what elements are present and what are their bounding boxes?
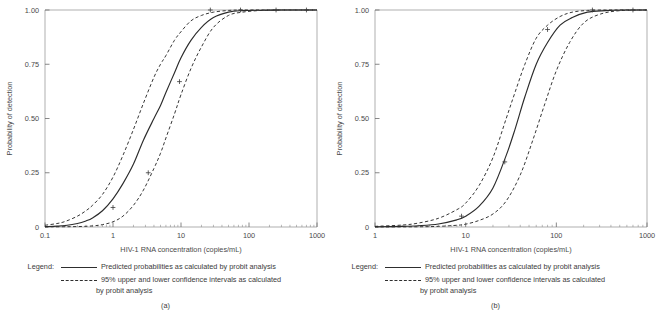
y-tick-label: 0.25: [25, 168, 39, 177]
legend-label: Legend:: [0, 262, 59, 272]
legend-solid-line-sample: [59, 262, 99, 272]
data-point-marker: [146, 170, 151, 175]
confidence-interval-curve: [45, 10, 317, 225]
legend-solid-text: Predicted probabilities as calculated by…: [423, 262, 661, 272]
panel-a-chart: 0.1110100100000.250.500.751.00HIV-1 RNA …: [0, 0, 331, 258]
data-point-marker: [238, 8, 243, 13]
y-tick-label: 0: [35, 223, 39, 232]
legend-dashed-text: 95% upper and lower confidence intervals…: [99, 275, 331, 285]
legend-dashed-text-continued: by probit analysis: [0, 286, 331, 295]
panel-b-legend: Legend: Predicted probabilities as calcu…: [330, 262, 661, 310]
panel-a: 0.1110100100000.250.500.751.00HIV-1 RNA …: [0, 0, 331, 323]
x-tick-label: 1: [111, 231, 115, 240]
panel-a-plot: 0.1110100100000.250.500.751.00HIV-1 RNA …: [0, 0, 331, 258]
legend-dashed-line-sample: [383, 275, 423, 285]
y-axis-title: Probability of detection: [5, 82, 14, 156]
y-tick-label: 0.75: [355, 60, 369, 69]
y-tick-label: 0.75: [25, 60, 39, 69]
y-tick-label: 1.00: [355, 6, 369, 15]
predicted-probability-curve: [45, 10, 317, 227]
data-point-marker: [274, 8, 279, 13]
y-tick-label: 0: [365, 223, 369, 232]
panel-b-plot: 110100100000.250.500.751.00HIV-1 RNA con…: [330, 0, 661, 258]
x-axis-title: HIV-1 RNA concentration (copies/mL): [450, 245, 571, 254]
x-tick-label: 1: [373, 231, 377, 240]
y-tick-label: 1.00: [25, 6, 39, 15]
x-tick-label: 1000: [639, 231, 655, 240]
data-point-marker: [208, 8, 213, 13]
x-tick-label: 10: [462, 231, 470, 240]
x-tick-label: 10: [177, 231, 185, 240]
data-point-marker: [545, 27, 550, 32]
y-tick-label: 0.25: [355, 168, 369, 177]
legend-dashed-text: 95% upper and lower confidence intervals…: [423, 275, 661, 285]
data-point-marker: [304, 8, 309, 13]
data-point-marker: [111, 205, 116, 210]
y-tick-label: 0.50: [25, 114, 39, 123]
legend-solid-line-sample: [383, 262, 423, 272]
legend-solid-text: Predicted probabilities as calculated by…: [99, 262, 331, 272]
data-point-marker: [177, 79, 182, 84]
panel-b-caption: (b): [330, 301, 661, 310]
panel-b: 110100100000.250.500.751.00HIV-1 RNA con…: [330, 0, 661, 323]
x-tick-label: 1000: [309, 231, 325, 240]
confidence-interval-curve: [375, 10, 647, 227]
x-tick-label: 0.1: [40, 231, 50, 240]
legend-dashed-text-continued: by probit analysis: [330, 286, 661, 295]
data-point-marker: [631, 8, 636, 13]
y-tick-label: 0.50: [355, 114, 369, 123]
panel-a-caption: (a): [0, 301, 331, 310]
legend-label: Legend:: [330, 262, 383, 272]
y-axis-title: Probability of detection: [335, 82, 344, 156]
x-axis-title: HIV-1 RNA concentration (copies/mL): [120, 245, 241, 254]
probit-analysis-figure: 0.1110100100000.250.500.751.00HIV-1 RNA …: [0, 0, 661, 323]
panel-b-chart: 110100100000.250.500.751.00HIV-1 RNA con…: [330, 0, 661, 258]
legend-dashed-line-sample: [59, 275, 99, 285]
x-tick-label: 100: [550, 231, 562, 240]
x-tick-label: 100: [243, 231, 255, 240]
panel-a-legend: Legend: Predicted probabilities as calcu…: [0, 262, 331, 310]
confidence-interval-curve: [45, 10, 317, 227]
